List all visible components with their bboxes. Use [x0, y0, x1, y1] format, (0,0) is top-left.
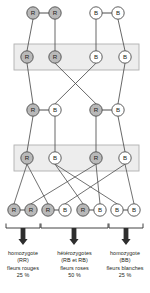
outcome-zygosity: hétérozygotes: [41, 250, 108, 257]
allele-white[interactable]: B: [49, 152, 61, 164]
allele-label: B: [94, 9, 98, 16]
allele-white[interactable]: B: [59, 204, 71, 216]
outcome-percent: 25 %: [2, 272, 44, 279]
outcome-caption: homozygote(BB)fleurs blanches25 %: [100, 250, 150, 279]
allele-white[interactable]: B: [112, 7, 124, 19]
allele-white[interactable]: B: [90, 7, 102, 19]
allele-red[interactable]: R: [8, 204, 20, 216]
allele-white[interactable]: B: [128, 204, 140, 216]
allele-label: R: [25, 53, 30, 60]
outcome-zygosity: homozygote: [100, 250, 150, 257]
allele-label: B: [123, 154, 127, 161]
allele-white[interactable]: B: [94, 204, 106, 216]
allele-label: R: [25, 154, 30, 161]
outcome-zygosity: homozygote: [2, 250, 44, 257]
allele-label: B: [63, 206, 67, 213]
outcome-arrow: [18, 228, 27, 245]
allele-red[interactable]: R: [90, 104, 102, 116]
allele-label: B: [116, 106, 120, 113]
outcome-arrow: [69, 228, 78, 245]
pedigree-diagram: RRBBRRBBRBRBRBRBRRRBRBBB homozygote(RR)f…: [0, 0, 150, 293]
allele-white[interactable]: B: [49, 104, 61, 116]
allele-label: R: [31, 9, 36, 16]
outcome-percent: 50 %: [41, 272, 108, 279]
allele-label: R: [94, 106, 99, 113]
outcome-genotype: (RB et RB): [41, 257, 108, 264]
outcome-phenotype: fleurs rouges: [2, 265, 44, 272]
outcome-genotype: (BB): [100, 257, 150, 264]
allele-label: B: [53, 154, 57, 161]
allele-label: B: [98, 206, 102, 213]
outcome-bracket: [41, 224, 108, 229]
outcome-phenotype: fleurs roses: [41, 265, 108, 272]
allele-white[interactable]: B: [112, 104, 124, 116]
allele-label: R: [94, 154, 99, 161]
allele-label: R: [12, 206, 17, 213]
allele-label: R: [29, 206, 34, 213]
allele-red[interactable]: R: [42, 204, 54, 216]
allele-red[interactable]: R: [27, 7, 39, 19]
outcome-genotype: (RR): [2, 257, 44, 264]
allele-label: B: [53, 106, 57, 113]
outcome-bracket: [6, 224, 40, 229]
allele-red[interactable]: R: [21, 152, 33, 164]
allele-red[interactable]: R: [49, 51, 61, 63]
allele-white[interactable]: B: [119, 51, 131, 63]
allele-red[interactable]: R: [25, 204, 37, 216]
outcome-bracket: [109, 224, 143, 229]
allele-red[interactable]: R: [21, 51, 33, 63]
allele-label: B: [116, 9, 120, 16]
allele-red[interactable]: R: [90, 152, 102, 164]
allele-label: R: [31, 106, 36, 113]
allele-label: R: [46, 206, 51, 213]
outcome-percent: 25 %: [100, 272, 150, 279]
allele-label: B: [132, 206, 136, 213]
outcome-arrow: [121, 228, 130, 245]
allele-nodes: RRBBRRBBRBRBRBRBRRRBRBBB: [8, 7, 140, 216]
outcome-phenotype: fleurs blanches: [100, 265, 150, 272]
allele-white[interactable]: B: [119, 152, 131, 164]
allele-label: B: [94, 53, 98, 60]
outcome-caption: homozygote(RR)fleurs rouges25 %: [2, 250, 44, 279]
allele-label: B: [115, 206, 119, 213]
outcome-caption: hétérozygotes(RB et RB)fleurs roses50 %: [41, 250, 108, 279]
allele-white[interactable]: B: [90, 51, 102, 63]
allele-label: B: [123, 53, 127, 60]
allele-red[interactable]: R: [27, 104, 39, 116]
allele-label: R: [53, 53, 58, 60]
allele-white[interactable]: B: [111, 204, 123, 216]
allele-label: R: [53, 9, 58, 16]
allele-label: R: [81, 206, 86, 213]
outcome-brackets: [6, 224, 143, 246]
allele-red[interactable]: R: [77, 204, 89, 216]
allele-red[interactable]: R: [49, 7, 61, 19]
